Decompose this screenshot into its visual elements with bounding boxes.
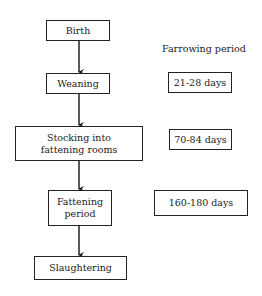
step-slaughtering-label: Slaughtering: [49, 262, 112, 274]
duration-fattening-label: 160-180 days: [169, 197, 233, 209]
duration-heading: Farrowing period: [162, 43, 246, 54]
duration-farrowing-label: 21-28 days: [174, 77, 226, 89]
duration-farrowing: 21-28 days: [168, 72, 232, 93]
duration-weaning-to-fattening: 70-84 days: [169, 129, 232, 150]
step-birth-label: Birth: [66, 25, 91, 37]
step-fattening: Fattening period: [48, 190, 112, 226]
step-fattening-label: Fattening period: [55, 196, 105, 220]
duration-weaning-to-fattening-label: 70-84 days: [174, 134, 226, 146]
step-weaning: Weaning: [46, 73, 110, 94]
step-stocking: Stocking into fattening rooms: [15, 126, 143, 161]
duration-fattening: 160-180 days: [154, 190, 248, 216]
step-slaughtering: Slaughtering: [34, 256, 127, 280]
step-birth: Birth: [46, 20, 110, 41]
step-weaning-label: Weaning: [57, 78, 99, 90]
step-stocking-label: Stocking into fattening rooms: [24, 132, 134, 156]
